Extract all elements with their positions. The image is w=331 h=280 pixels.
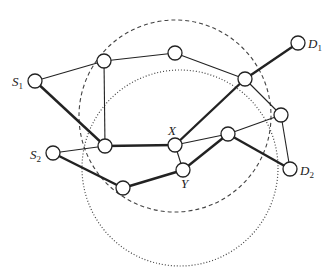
- label-Y: Y: [181, 176, 190, 191]
- edge-C-D1: [245, 43, 298, 79]
- node-A: [97, 54, 111, 68]
- node-R: [221, 127, 235, 141]
- label-S1: S1: [12, 74, 23, 91]
- graph-nodes: [28, 36, 305, 195]
- node-X: [168, 138, 182, 152]
- node-B: [168, 46, 182, 60]
- network-diagram: S1D1XS2YD2: [0, 0, 331, 280]
- edge-A-L: [104, 61, 105, 146]
- label-D2: D2: [299, 163, 314, 180]
- node-E: [274, 108, 288, 122]
- edge-M-Y: [123, 170, 183, 188]
- edge-Y-R: [183, 134, 228, 170]
- edge-L-S2: [53, 146, 105, 153]
- node-Y: [176, 163, 190, 177]
- edge-L-X: [105, 145, 175, 146]
- diagram-svg: S1D1XS2YD2: [0, 0, 331, 280]
- node-S2: [46, 146, 60, 160]
- label-X: X: [167, 123, 177, 138]
- node-S1: [28, 74, 42, 88]
- edge-B-C: [175, 53, 245, 79]
- node-L: [98, 139, 112, 153]
- label-S2: S2: [30, 147, 41, 164]
- graph-edges: [35, 43, 298, 188]
- node-D1: [291, 36, 305, 50]
- edge-S2-M: [53, 153, 123, 188]
- edge-S1-A: [35, 61, 104, 81]
- edge-S1-L: [35, 81, 105, 146]
- node-C: [238, 72, 252, 86]
- edge-R-E: [228, 115, 281, 134]
- edge-E-D2: [281, 115, 290, 169]
- label-D1: D1: [307, 36, 322, 53]
- node-M: [116, 181, 130, 195]
- edge-R-D2: [228, 134, 290, 169]
- edge-A-B: [104, 53, 175, 61]
- node-D2: [283, 162, 297, 176]
